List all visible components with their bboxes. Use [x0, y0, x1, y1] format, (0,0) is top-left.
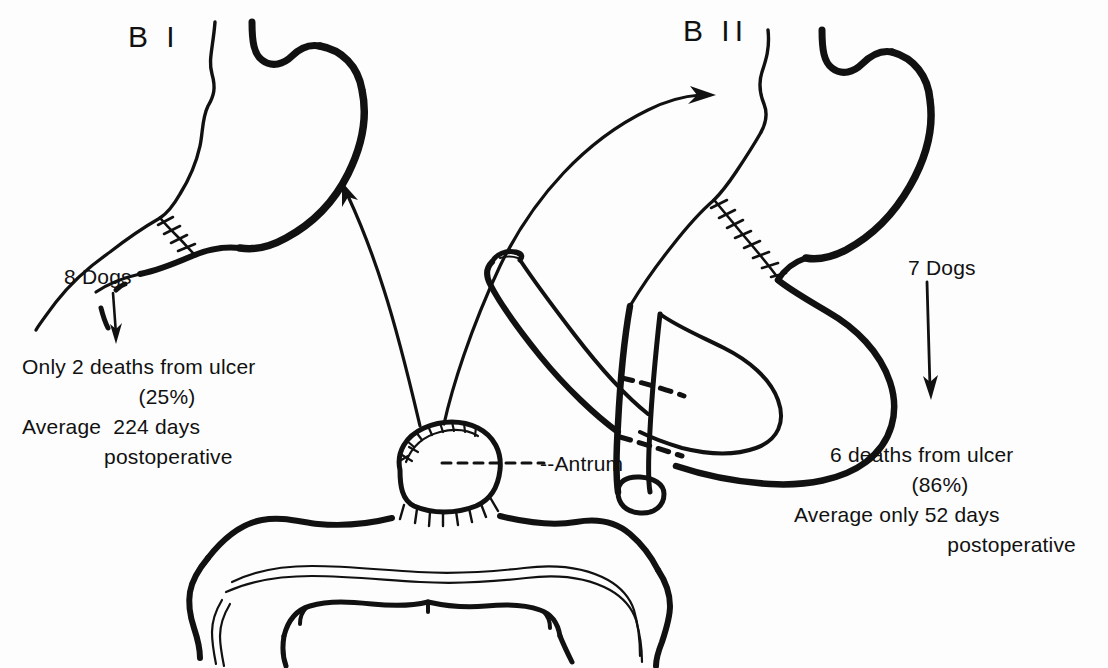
right-outcome-line-3: Average only 52 days	[794, 500, 1000, 530]
left-outcome-line-2: (25%)	[22, 382, 312, 412]
seven-dogs-arrow	[923, 282, 938, 400]
antrum-label: --Antrum	[540, 452, 623, 476]
right-outcome-line-1: 6 deaths from ulcer	[830, 440, 1014, 470]
left-subject-count-label: 8 Dogs	[64, 265, 132, 289]
eight-dogs-arrow	[101, 284, 125, 344]
antral-pouch	[398, 422, 544, 526]
transverse-colon	[189, 516, 670, 666]
diagram-artwork	[0, 0, 1108, 668]
left-outcome-line-3: Average 224 days	[22, 412, 200, 442]
right-outcome-line-2: (86%)	[830, 470, 1050, 500]
surgical-diagram-figure: B I B II 8 Dogs 7 Dogs Only 2 deaths fro…	[0, 0, 1108, 668]
left-outcome-line-4: postoperative	[104, 442, 233, 472]
right-subject-count-label: 7 Dogs	[908, 256, 976, 280]
left-outcome-line-1: Only 2 deaths from ulcer	[22, 352, 256, 382]
right-outcome-line-4: postoperative	[794, 530, 1076, 560]
antral-pouch-suture	[398, 422, 478, 462]
arrow-to-billroth-one	[342, 182, 420, 426]
billroth-two-heading: B II	[683, 14, 748, 48]
billroth-two-suture-line	[711, 200, 786, 278]
arrow-to-billroth-two	[444, 86, 716, 424]
billroth-one-suture-line	[158, 217, 201, 259]
billroth-one-heading: B I	[128, 20, 180, 54]
